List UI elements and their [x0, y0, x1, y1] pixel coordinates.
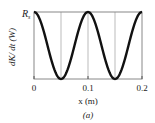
x-axis-label: x (m) — [78, 96, 98, 106]
chart: Rs dK/ dt (W) 00.10.2 x (m) (a) — [0, 0, 155, 123]
x-tick-label: 0 — [32, 83, 37, 93]
y-axis-label: dK/ dt (W) — [7, 28, 17, 66]
y-tick-label: Rs — [21, 8, 31, 20]
x-tick-label: 0.1 — [82, 83, 93, 93]
x-tick-label: 0.2 — [136, 83, 147, 93]
figure-caption: (a) — [83, 110, 94, 120]
